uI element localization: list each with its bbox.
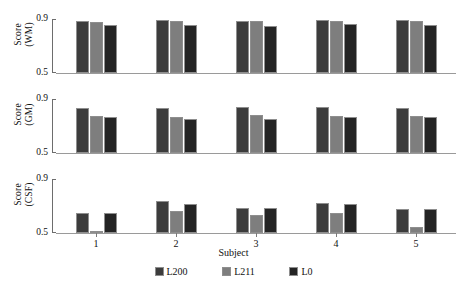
y-axis-label-csf: Score (CSF) xyxy=(8,184,38,205)
bar-gm-l0-subject-5 xyxy=(424,117,437,153)
panel-score-wm: Score (WM) 0.9 0.5 xyxy=(0,0,467,80)
bar-gm-l200-subject-4 xyxy=(316,107,329,153)
bar-wm-l200-subject-5 xyxy=(396,20,409,73)
bar-gm-l0-subject-4 xyxy=(344,117,357,153)
y-axis-label-wm-line2: (WM) xyxy=(23,22,34,47)
plot-area-csf xyxy=(56,179,456,233)
y-tick-top-gm: 0.9 xyxy=(24,93,48,103)
legend-item-l211: L211 xyxy=(222,266,255,278)
bar-csf-l211-subject-3 xyxy=(250,215,263,233)
bar-wm-l211-subject-5 xyxy=(410,21,423,73)
bar-wm-l200-subject-4 xyxy=(316,20,329,73)
x-axis-baseline-wm xyxy=(56,73,456,74)
bar-csf-l211-subject-2 xyxy=(170,211,183,233)
bar-wm-l0-subject-4 xyxy=(344,24,357,73)
bar-csf-l0-subject-1 xyxy=(104,213,117,233)
bar-gm-l0-subject-3 xyxy=(264,119,277,153)
y-tick-top-csf: 0.9 xyxy=(24,173,48,183)
bar-wm-l211-subject-4 xyxy=(330,21,343,73)
bar-gm-l211-subject-5 xyxy=(410,116,423,153)
y-axis-label-gm-line2: (GM) xyxy=(23,103,34,126)
bar-csf-l0-subject-4 xyxy=(344,204,357,233)
y-axis-spine-gm xyxy=(52,99,53,153)
bar-chart-figure: Score (WM) 0.9 0.5 Score (GM) 0.9 0.5 xyxy=(0,0,467,292)
legend-swatch-l211-icon xyxy=(222,267,231,276)
y-axis-label-wm-line1: Score xyxy=(12,22,23,47)
bar-wm-l0-subject-2 xyxy=(184,25,197,73)
bar-csf-l0-subject-3 xyxy=(264,208,277,233)
bar-wm-l211-subject-3 xyxy=(250,21,263,73)
bar-gm-l200-subject-2 xyxy=(156,108,169,153)
y-axis-label-gm-line1: Score xyxy=(12,103,23,126)
bar-csf-l200-subject-3 xyxy=(236,208,249,233)
bar-gm-l200-subject-1 xyxy=(76,108,89,153)
bar-gm-l0-subject-2 xyxy=(184,119,197,153)
y-axis-label-csf-line2: (CSF) xyxy=(23,182,34,206)
bar-gm-l200-subject-3 xyxy=(236,107,249,153)
bar-gm-l211-subject-3 xyxy=(250,115,263,153)
chart-legend: L200 L211 L0 xyxy=(0,265,467,278)
x-axis-tick-3 xyxy=(256,233,257,237)
bar-csf-l200-subject-1 xyxy=(76,213,89,233)
bar-gm-l211-subject-1 xyxy=(90,116,103,153)
y-tick-bottom-wm: 0.5 xyxy=(24,67,48,77)
bar-wm-l200-subject-3 xyxy=(236,21,249,73)
bar-wm-l211-subject-2 xyxy=(170,21,183,73)
x-axis-tick-1 xyxy=(96,233,97,237)
bar-wm-l200-subject-2 xyxy=(156,20,169,73)
legend-item-l200: L200 xyxy=(155,266,188,278)
bar-gm-l211-subject-2 xyxy=(170,117,183,153)
bar-wm-l200-subject-1 xyxy=(76,21,89,73)
y-axis-spine-wm xyxy=(52,19,53,73)
legend-swatch-l0-icon xyxy=(289,267,298,276)
bar-csf-l0-subject-2 xyxy=(184,204,197,233)
panel-score-csf: Score (CSF) 0.9 0.5 xyxy=(0,160,467,240)
legend-label-l200: L200 xyxy=(167,266,188,278)
y-axis-label-wm: Score (WM) xyxy=(8,24,38,45)
y-tick-top-wm: 0.9 xyxy=(24,13,48,23)
x-axis-title: Subject xyxy=(0,247,467,258)
y-axis-spine-csf xyxy=(52,179,53,233)
x-axis-tick-2 xyxy=(176,233,177,237)
bar-csf-l200-subject-5 xyxy=(396,209,409,233)
y-axis-label-gm: Score (GM) xyxy=(8,104,38,125)
bar-wm-l0-subject-5 xyxy=(424,25,437,73)
plot-area-gm xyxy=(56,99,456,153)
panel-score-gm: Score (GM) 0.9 0.5 xyxy=(0,80,467,160)
bar-gm-l0-subject-1 xyxy=(104,117,117,153)
y-tick-bottom-gm: 0.5 xyxy=(24,147,48,157)
bar-gm-l211-subject-4 xyxy=(330,116,343,153)
bar-wm-l211-subject-1 xyxy=(90,22,103,73)
legend-swatch-l200-icon xyxy=(155,267,164,276)
legend-label-l211: L211 xyxy=(234,266,255,278)
bar-csf-l211-subject-4 xyxy=(330,213,343,233)
x-axis-tick-4 xyxy=(336,233,337,237)
x-axis-tick-5 xyxy=(416,233,417,237)
bar-wm-l0-subject-3 xyxy=(264,26,277,73)
x-axis-baseline-gm xyxy=(56,153,456,154)
bar-csf-l200-subject-4 xyxy=(316,203,329,233)
plot-area-wm xyxy=(56,19,456,73)
y-axis-label-csf-line1: Score xyxy=(12,182,23,206)
bar-wm-l0-subject-1 xyxy=(104,25,117,73)
legend-item-l0: L0 xyxy=(289,266,312,278)
bar-csf-l0-subject-5 xyxy=(424,209,437,233)
legend-label-l0: L0 xyxy=(301,266,312,278)
bar-gm-l200-subject-5 xyxy=(396,108,409,153)
bar-csf-l200-subject-2 xyxy=(156,201,169,233)
